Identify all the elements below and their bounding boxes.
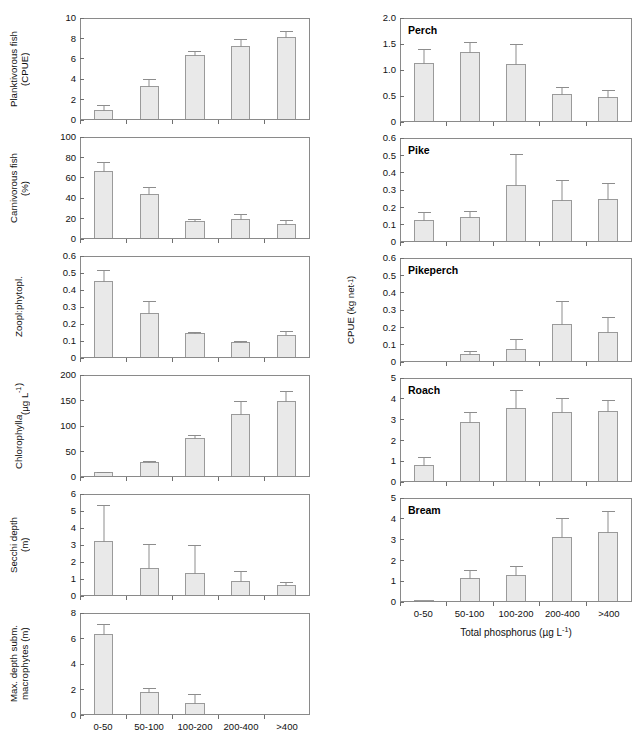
error-bar-cap [234,341,247,342]
bar-slot [539,259,585,361]
x-tick-mark [126,239,172,244]
error-bar-cap [143,461,156,462]
bar-slot [493,19,539,121]
x-tick-mark [218,358,264,363]
y-tick-label: 0.1 [63,336,80,346]
y-tick-mark [80,477,84,478]
figure-root: 0246810Planktivorous fish(CPUE)020406080… [0,0,644,739]
y-tick-mark [400,258,404,259]
error-bar [562,301,563,324]
x-tick-mark [493,242,539,247]
y-axis-label-carnivorous-fish: Carnivorous fish(%) [4,137,34,239]
y-tick-mark [80,18,84,19]
error-bar-cap [602,400,615,401]
x-tick-mark [264,477,310,482]
y-tick-mark [80,198,84,199]
error-bar-cap [602,90,615,91]
panel-title-perch: Perch [408,24,437,36]
bar-secchi-depth-0-50 [94,541,113,595]
x-tick-label: 200-400 [218,721,264,732]
error-bar [240,401,241,415]
x-tick-mark [493,122,539,127]
y-tick-label: 0.2 [63,319,80,329]
x-tick-mark [586,602,632,607]
error-bar [424,457,425,466]
x-tick-mark [586,122,632,127]
error-bar-cap [418,457,431,458]
panel-title-bream: Bream [408,504,441,516]
error-bar-cap [143,301,156,302]
bar-slot [539,379,585,481]
x-tick-mark [539,122,585,127]
x-tick-mark [264,596,310,601]
error-bar [516,154,517,186]
x-tick-mark [218,715,264,720]
y-tick-mark [80,545,84,546]
error-bar-cap [188,332,201,333]
error-bar-cap [97,505,110,506]
bar-slot [447,139,493,241]
y-tick-label: 0.5 [383,91,400,101]
x-tick-mark [446,362,492,367]
y-tick-mark [400,362,404,363]
x-tick-label: 50-100 [126,721,172,732]
y-tick-mark [400,398,404,399]
error-bar [608,183,609,199]
y-axis-label-planktivorous-fish: Planktivorous fish(CPUE) [4,18,34,120]
bar-series-zoopl-phytopl [81,257,309,357]
y-tick-label: 5 [391,493,400,503]
x-tick-mark [218,477,264,482]
plot-area-perch [400,18,632,122]
y-tick-mark [80,715,84,716]
error-bar [194,694,195,704]
y-tick-label: 0.6 [63,251,80,261]
bar-zoopl-phytopl->400 [277,335,296,357]
error-bar-cap [556,87,569,88]
y-tick-label: 60 [65,173,80,183]
error-bar [470,412,471,422]
bar-carnivorous-fish-200-400 [231,219,250,238]
y-tick-mark [400,207,404,208]
y-axis-max-depth-subm-macrophytes: 02468 [20,613,80,715]
bar-roach-50-100 [460,422,479,481]
y-tick-label: 0 [391,597,400,607]
y-tick-mark [400,70,404,71]
y-tick-label: 10 [65,13,80,23]
x-tick-mark [586,482,632,487]
y-tick-label: 1.0 [383,65,400,75]
panel-secchi-depth: 0123456Secchi depth(m) [0,0,644,739]
bar-zoopl-phytopl-50-100 [140,313,159,357]
y-tick-label: 2.0 [383,13,400,23]
x-tick-mark [172,239,218,244]
bar-slot [172,257,218,357]
bar-slot [81,138,127,238]
bar-zoopl-phytopl-200-400 [231,342,250,357]
y-tick-mark [80,273,84,274]
error-bar [424,49,425,64]
y-tick-label: 2 [71,95,80,105]
y-tick-label: 200 [60,370,80,380]
error-bar [516,390,517,409]
y-tick-mark [400,419,404,420]
bar-slot [172,614,218,714]
x-tick-mark [172,715,218,720]
x-tick-mark [126,120,172,125]
y-tick-mark [80,375,84,376]
bar-slot [127,614,173,714]
bar-pikeperch-100-200 [506,349,525,361]
x-tick-marks-bream [400,602,632,607]
y-tick-label: 4 [71,74,80,84]
error-bar-cap [556,398,569,399]
error-bar-cap [234,39,247,40]
bar-slot [539,139,585,241]
x-tick-mark [126,358,172,363]
y-tick-mark [80,177,84,178]
y-tick-mark [80,596,84,597]
error-bar-cap [97,270,110,271]
error-bar-cap [188,694,201,695]
y-tick-label: 3 [391,535,400,545]
error-bar [470,211,471,218]
error-bar-cap [143,544,156,545]
error-bar [516,44,517,65]
plot-area-zoopl-phytopl [80,256,310,358]
